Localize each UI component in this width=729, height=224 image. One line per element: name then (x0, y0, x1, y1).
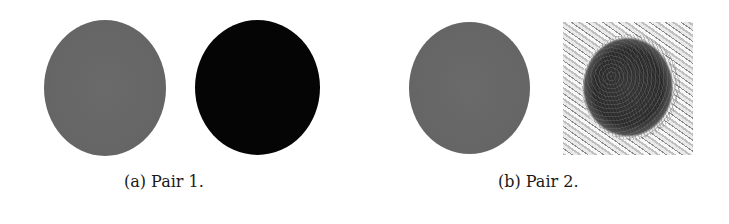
caption-a: (a) Pair 1. (124, 172, 204, 191)
caption-b: (b) Pair 2. (498, 172, 579, 191)
pair2-gray-disc-image (409, 22, 530, 154)
pair1-black-disc-image (195, 20, 320, 155)
pair2-textured-disc-detail (582, 34, 680, 140)
pair1-gray-disc-image (44, 20, 166, 156)
